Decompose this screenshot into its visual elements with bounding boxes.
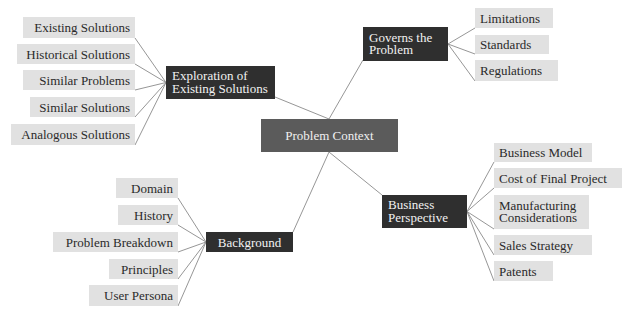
leaf-label: Limitations xyxy=(480,12,540,25)
branch-node-label: Exploration of Existing Solutions xyxy=(172,70,268,95)
leaf-node-principles[interactable]: Principles xyxy=(109,259,178,279)
leaf-label: Standards xyxy=(480,38,531,51)
edge-exploration-leaf-0 xyxy=(135,38,166,83)
edge-center-to-background xyxy=(293,152,329,232)
leaf-node-problem-breakdown[interactable]: Problem Breakdown xyxy=(53,232,178,252)
leaf-node-business-model[interactable]: Business Model xyxy=(494,143,592,162)
branch-node-business-perspective[interactable]: Business Perspective xyxy=(382,195,467,228)
leaf-label: Business Model xyxy=(499,146,582,159)
leaf-node-similar-problems[interactable]: Similar Problems xyxy=(23,70,135,90)
leaf-node-similar-solutions[interactable]: Similar Solutions xyxy=(30,97,135,117)
leaf-node-history[interactable]: History xyxy=(118,205,178,225)
leaf-label: Cost of Final Project xyxy=(499,172,607,185)
leaf-label: Patents xyxy=(499,265,537,278)
leaf-node-limitations[interactable]: Limitations xyxy=(475,8,553,28)
leaf-node-sales-strategy[interactable]: Sales Strategy xyxy=(494,235,592,255)
edge-background-leaf-1 xyxy=(178,225,206,242)
edge-business-leaf-2 xyxy=(467,212,494,230)
leaf-node-regulations[interactable]: Regulations xyxy=(475,60,558,81)
leaf-label: Historical Solutions xyxy=(26,48,130,61)
branch-node-label: Governs the Problem xyxy=(369,32,432,57)
leaf-node-patents[interactable]: Patents xyxy=(494,261,553,281)
leaf-label: Existing Solutions xyxy=(34,21,130,34)
edge-business-leaf-3 xyxy=(467,212,494,256)
branch-node-label: Business Perspective xyxy=(388,199,448,224)
branch-node-background[interactable]: Background xyxy=(206,232,293,252)
edge-center-to-exploration xyxy=(275,97,329,119)
leaf-label: Problem Breakdown xyxy=(66,236,173,249)
branch-node-label: Background xyxy=(218,236,282,249)
central-node-problem-context[interactable]: Problem Context xyxy=(261,119,398,152)
leaf-label: Sales Strategy xyxy=(499,239,573,252)
edge-business-leaf-4 xyxy=(467,212,494,282)
edge-governs-leaf-2 xyxy=(448,44,475,81)
leaf-node-cost-of-final-project[interactable]: Cost of Final Project xyxy=(494,168,622,188)
branch-node-exploration-of-existing-solutions[interactable]: Exploration of Existing Solutions xyxy=(166,66,275,99)
edge-exploration-leaf-3 xyxy=(135,83,166,118)
edge-background-leaf-0 xyxy=(178,198,206,242)
edge-center-to-business xyxy=(329,152,382,195)
leaf-label: User Persona xyxy=(104,289,173,302)
leaf-label: Similar Solutions xyxy=(39,101,130,114)
leaf-node-user-persona[interactable]: User Persona xyxy=(89,285,178,306)
edge-governs-leaf-0 xyxy=(448,28,475,44)
leaf-node-historical-solutions[interactable]: Historical Solutions xyxy=(17,44,135,64)
leaf-node-standards[interactable]: Standards xyxy=(475,35,549,54)
leaf-label: History xyxy=(134,209,173,222)
edge-exploration-leaf-4 xyxy=(135,83,166,146)
edge-exploration-leaf-2 xyxy=(135,83,166,91)
edge-exploration-leaf-1 xyxy=(135,64,166,83)
central-node-label: Problem Context xyxy=(285,129,373,142)
leaf-label: Regulations xyxy=(480,64,542,77)
leaf-label: Domain xyxy=(131,182,173,195)
branch-node-governs-the-problem[interactable]: Governs the Problem xyxy=(363,27,448,61)
leaf-node-manufacturing-considerations[interactable]: Manufacturing Considerations xyxy=(494,195,589,229)
leaf-label: Manufacturing Considerations xyxy=(499,200,577,225)
leaf-node-existing-solutions[interactable]: Existing Solutions xyxy=(23,17,135,38)
leaf-label: Analogous Solutions xyxy=(21,128,130,141)
edge-business-leaf-0 xyxy=(467,162,494,212)
leaf-label: Similar Problems xyxy=(39,74,130,87)
edge-center-to-governs xyxy=(329,60,363,119)
leaf-node-analogous-solutions[interactable]: Analogous Solutions xyxy=(11,124,135,145)
leaf-label: Principles xyxy=(121,263,173,276)
leaf-node-domain[interactable]: Domain xyxy=(116,178,178,198)
edge-business-leaf-1 xyxy=(467,188,494,212)
